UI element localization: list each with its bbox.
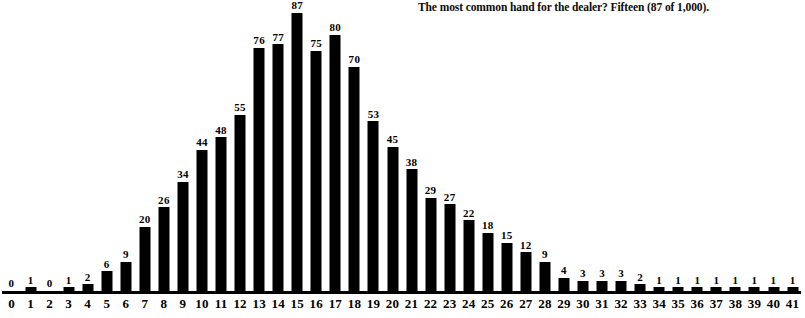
x-tick-label: 11: [212, 296, 231, 312]
bar: [635, 284, 646, 290]
bar-value-label: 0: [9, 278, 15, 289]
bar: [120, 262, 131, 291]
x-tick-label: 20: [383, 296, 402, 312]
bar: [139, 227, 150, 291]
bar-group: 76: [250, 0, 269, 292]
x-tick-label: 33: [631, 296, 650, 312]
bar: [539, 262, 550, 291]
bar-value-label: 1: [28, 275, 34, 286]
bar-value-label: 1: [713, 275, 719, 286]
bar-group: 1: [21, 0, 40, 292]
bar-group: 20: [135, 0, 154, 292]
x-tick-label: 3: [59, 296, 78, 312]
x-tick-label: 16: [307, 296, 326, 312]
bar: [292, 13, 303, 291]
x-tick-label: 39: [745, 296, 764, 312]
bar-group: 1: [745, 0, 764, 292]
bar: [501, 243, 512, 291]
bar-value-label: 20: [139, 214, 151, 225]
x-tick-label: 7: [135, 296, 154, 312]
x-tick-label: 28: [535, 296, 554, 312]
bar-value-label: 3: [580, 268, 586, 279]
bar-group: 9: [535, 0, 554, 292]
x-axis-line: [2, 291, 801, 294]
x-tick-label: 13: [250, 296, 269, 312]
bar-value-label: 12: [520, 240, 532, 251]
bar-value-label: 22: [463, 208, 475, 219]
bar-value-label: 29: [425, 185, 437, 196]
bar-value-label: 1: [771, 275, 777, 286]
x-tick-label: 35: [669, 296, 688, 312]
bar-group: 27: [440, 0, 459, 292]
x-tick-label: 1: [21, 296, 40, 312]
x-tick-label: 9: [173, 296, 192, 312]
bar-group: 3: [593, 0, 612, 292]
bar: [463, 220, 474, 290]
bar-group: 80: [326, 0, 345, 292]
bar: [444, 204, 455, 290]
bar-group: 70: [345, 0, 364, 292]
bar-group: 34: [173, 0, 192, 292]
x-tick-label: 40: [764, 296, 783, 312]
bar-group: 0: [2, 0, 21, 292]
bars-layer: 0101269202634444855767787758070534538292…: [0, 0, 805, 292]
bar-group: 9: [116, 0, 135, 292]
bar-group: 87: [288, 0, 307, 292]
x-tick-label: 22: [421, 296, 440, 312]
bar-group: 3: [612, 0, 631, 292]
bar-group: 6: [97, 0, 116, 292]
bar-value-label: 1: [790, 275, 796, 286]
bar-group: 12: [516, 0, 535, 292]
x-tick-label: 36: [688, 296, 707, 312]
bar-value-label: 48: [215, 125, 227, 136]
bar-group: 77: [269, 0, 288, 292]
bar-value-label: 44: [196, 137, 208, 148]
x-tick-label: 24: [459, 296, 478, 312]
bar-group: 15: [497, 0, 516, 292]
bar-value-label: 26: [158, 195, 170, 206]
bar-group: 1: [669, 0, 688, 292]
bar-group: 45: [383, 0, 402, 292]
bar-value-label: 70: [349, 54, 361, 65]
bar: [558, 278, 569, 291]
bar-group: 1: [764, 0, 783, 292]
bar-group: 55: [231, 0, 250, 292]
bar-value-label: 45: [387, 134, 399, 145]
bar-group: 3: [574, 0, 593, 292]
histogram-plot: 0101269202634444855767787758070534538292…: [0, 0, 805, 318]
bar-group: 26: [154, 0, 173, 292]
x-tick-label: 34: [650, 296, 669, 312]
x-tick-label: 38: [726, 296, 745, 312]
bar-group: 53: [364, 0, 383, 292]
x-tick-label: 23: [440, 296, 459, 312]
x-tick-label: 5: [97, 296, 116, 312]
bar-value-label: 87: [291, 0, 303, 11]
bar-group: 1: [59, 0, 78, 292]
bar-value-label: 34: [177, 169, 189, 180]
bar-value-label: 1: [732, 275, 738, 286]
bar-value-label: 2: [637, 272, 643, 283]
bar: [520, 252, 531, 290]
bar-group: 29: [421, 0, 440, 292]
bar-value-label: 4: [561, 265, 567, 276]
bar-group: 4: [554, 0, 573, 292]
bar-group: 44: [193, 0, 212, 292]
chart-page: The most common hand for the dealer? Fif…: [0, 0, 805, 318]
bar-value-label: 0: [47, 278, 53, 289]
bar: [425, 198, 436, 291]
bar-group: 18: [478, 0, 497, 292]
bar: [406, 169, 417, 290]
bar-value-label: 38: [406, 157, 418, 168]
bar-value-label: 53: [368, 109, 380, 120]
bar-group: 48: [212, 0, 231, 292]
bar: [177, 182, 188, 291]
bar-value-label: 1: [694, 275, 700, 286]
bar: [368, 121, 379, 290]
bar-value-label: 3: [618, 268, 624, 279]
x-tick-label: 12: [231, 296, 250, 312]
bar-value-label: 9: [123, 249, 129, 260]
x-tick-label: 37: [707, 296, 726, 312]
bar-value-label: 55: [234, 102, 246, 113]
x-tick-label: 17: [326, 296, 345, 312]
x-tick-label: 30: [574, 296, 593, 312]
